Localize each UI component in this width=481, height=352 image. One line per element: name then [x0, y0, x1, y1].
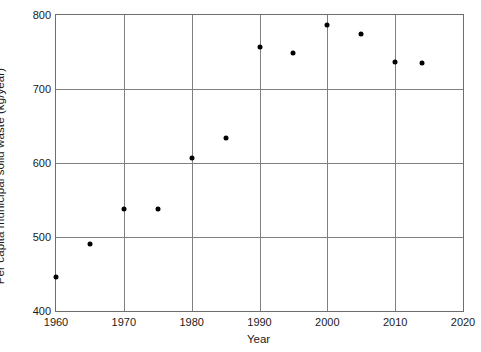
data-point: [87, 242, 92, 247]
gridline-vertical: [192, 15, 193, 311]
data-point: [121, 206, 126, 211]
data-point: [189, 155, 194, 160]
y-tick-label: 800: [33, 9, 51, 21]
y-tick-label: 700: [33, 83, 51, 95]
x-tick-label: 1960: [44, 316, 68, 328]
x-axis-title: Year: [55, 333, 462, 345]
x-tick-label: 2020: [451, 316, 475, 328]
x-tick-label: 1990: [247, 316, 271, 328]
data-point: [257, 44, 262, 49]
data-point: [155, 206, 160, 211]
data-point: [325, 23, 330, 28]
data-point: [54, 274, 59, 279]
x-tick-label: 2000: [315, 316, 339, 328]
gridline-vertical: [124, 15, 125, 311]
data-point: [359, 31, 364, 36]
y-tick-label: 500: [33, 231, 51, 243]
y-tick-label: 600: [33, 157, 51, 169]
data-point: [420, 61, 425, 66]
data-point: [393, 59, 398, 64]
x-tick-label: 2010: [383, 316, 407, 328]
gridline-vertical: [260, 15, 261, 311]
gridline-vertical: [327, 15, 328, 311]
data-point: [291, 50, 296, 55]
y-axis-title: Per capita municipal solid waste (kg/yea…: [0, 0, 28, 352]
x-tick-label: 1970: [112, 316, 136, 328]
data-point: [223, 135, 228, 140]
plot-area: 400500600700800 196019701980199020002010…: [55, 14, 464, 312]
x-tick-label: 1980: [179, 316, 203, 328]
scatter-chart-figure: Per capita municipal solid waste (kg/yea…: [0, 0, 481, 352]
